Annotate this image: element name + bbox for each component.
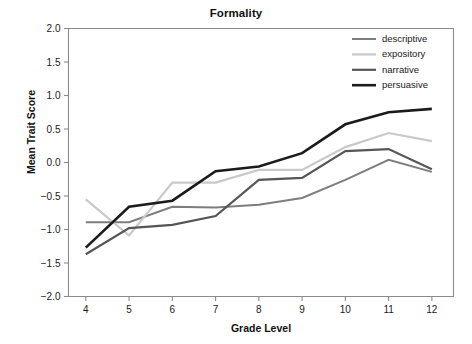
x-tick-labels: 456789101112: [83, 304, 438, 315]
y-tick-label: −1.5: [41, 258, 61, 269]
x-tick-label: 12: [426, 304, 438, 315]
x-tick-label: 11: [383, 304, 394, 315]
y-tick-labels: −2.0−1.5−1.0−0.50.00.51.01.52.0: [41, 23, 61, 302]
y-tick-label: 1.0: [47, 90, 61, 101]
legend-label-descriptive: descriptive: [382, 33, 427, 44]
x-tick-label: 10: [340, 304, 352, 315]
chart-figure: Formality Mean Trait Score Grade Level −…: [0, 0, 472, 344]
x-tick-label: 8: [256, 304, 262, 315]
x-tick-label: 4: [83, 304, 89, 315]
x-tick-label: 6: [170, 304, 176, 315]
x-tick-label: 9: [299, 304, 305, 315]
y-tick-label: 1.5: [47, 57, 61, 68]
y-tick-label: 2.0: [47, 23, 61, 34]
chart-legend: descriptiveexpositorynarrativepersuasive: [352, 33, 428, 90]
legend-label-expository: expository: [382, 48, 426, 59]
x-tick-label: 5: [126, 304, 132, 315]
legend-label-persuasive: persuasive: [382, 79, 428, 90]
y-tick-label: −2.0: [41, 291, 61, 302]
legend-label-narrative: narrative: [382, 64, 419, 75]
plot-area: −2.0−1.5−1.0−0.50.00.51.01.52.0 45678910…: [0, 0, 472, 344]
x-tick-label: 7: [213, 304, 219, 315]
series-line-expository: [86, 133, 432, 236]
data-series-group: [86, 109, 432, 254]
y-tick-label: 0.0: [47, 157, 61, 168]
y-tick-label: −1.0: [41, 224, 61, 235]
y-tick-label: 0.5: [47, 124, 61, 135]
y-tick-label: −0.5: [41, 191, 61, 202]
